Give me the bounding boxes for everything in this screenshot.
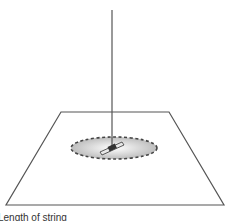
caption: Length of string	[0, 212, 67, 221]
pendulum-diagram	[0, 0, 240, 221]
